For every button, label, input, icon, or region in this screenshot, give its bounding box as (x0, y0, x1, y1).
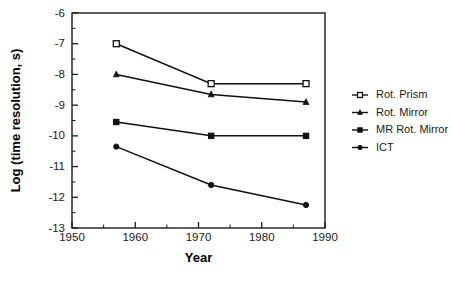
y-tick-label: -8 (55, 68, 65, 80)
data-point (208, 182, 213, 187)
data-point (114, 119, 119, 124)
line-chart: -6-7-8-9-10-11-12-1319501960197019801990… (0, 0, 452, 287)
data-point (114, 144, 119, 149)
y-tick-label: -12 (48, 191, 65, 203)
y-tick-label: -9 (55, 99, 65, 111)
chart-container: -6-7-8-9-10-11-12-1319501960197019801990… (0, 0, 452, 287)
data-point (113, 71, 119, 77)
x-tick-label: 1950 (59, 231, 85, 243)
legend-marker (358, 93, 363, 98)
series-line-3 (116, 147, 306, 205)
plot-frame (72, 13, 325, 228)
y-tick-label: -7 (55, 37, 65, 49)
data-point (209, 133, 214, 138)
legend-marker (358, 145, 362, 149)
x-tick-label: 1980 (249, 231, 275, 243)
x-axis-title: Year (185, 250, 212, 265)
x-tick-label: 1970 (186, 231, 212, 243)
data-point (113, 41, 119, 47)
series-line-0 (116, 44, 306, 84)
data-point (303, 202, 308, 207)
y-tick-label: -6 (55, 7, 65, 19)
legend-marker (358, 128, 362, 132)
y-tick-label: -11 (49, 160, 65, 172)
data-point (303, 133, 308, 138)
data-point (303, 81, 309, 87)
legend-label: Rot. Mirror (376, 106, 428, 118)
legend-label: ICT (376, 141, 394, 153)
x-tick-label: 1960 (122, 231, 148, 243)
y-tick-label: -10 (48, 129, 65, 141)
legend-label: Rot. Prism (376, 88, 427, 100)
data-point (208, 81, 214, 87)
x-tick-label: 1990 (312, 231, 338, 243)
y-axis-title: Log (time resolution, s) (8, 49, 23, 193)
legend-label: MR Rot. Mirror (376, 123, 448, 135)
series-line-1 (116, 74, 306, 102)
